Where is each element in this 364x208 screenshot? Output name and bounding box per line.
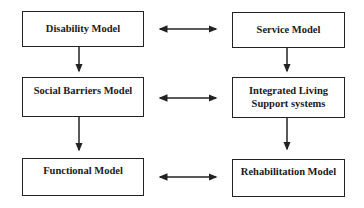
box-label: Functional Model: [23, 164, 143, 177]
box-service-model: Service Model: [232, 12, 345, 48]
box-integrated-living-support: Integrated Living Support systems: [232, 77, 345, 118]
box-label: Disability Model: [23, 22, 143, 35]
box-rehabilitation-model: Rehabilitation Model: [232, 159, 345, 197]
box-label: Service Model: [233, 23, 344, 36]
box-label: Rehabilitation Model: [233, 165, 344, 178]
box-label-line2: Support systems: [233, 97, 344, 110]
box-disability-model: Disability Model: [22, 11, 144, 47]
box-functional-model: Functional Model: [22, 158, 144, 196]
box-label-line1: Integrated Living: [233, 84, 344, 97]
box-label: Social Barriers Model: [23, 84, 143, 97]
box-social-barriers-model: Social Barriers Model: [22, 77, 144, 117]
